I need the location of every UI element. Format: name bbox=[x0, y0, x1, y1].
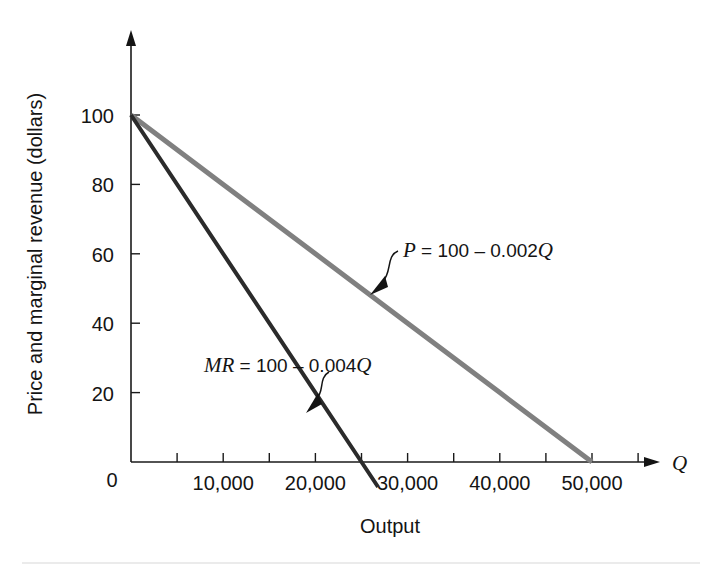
demand-annotation-label: P = 100 – 0.002Q bbox=[402, 238, 553, 262]
x-tick-label: 30,000 bbox=[377, 472, 438, 494]
x-axis-tick-labels: 10,00020,00030,00040,00050,000 bbox=[193, 472, 623, 494]
y-tick-label: 40 bbox=[92, 313, 114, 335]
series-group bbox=[131, 115, 592, 487]
origin-tick-label: 0 bbox=[106, 469, 117, 491]
y-axis-ticks bbox=[131, 115, 140, 393]
y-axis-tick-labels: 20406080100 bbox=[81, 105, 114, 405]
demand-annotation-leader bbox=[383, 251, 398, 281]
mr-annotation-label: MR = 100 – 0.004Q bbox=[203, 353, 372, 377]
y-axis-title: Price and marginal revenue (dollars) bbox=[24, 93, 46, 415]
x-tick-label: 10,000 bbox=[193, 472, 254, 494]
y-tick-label: 100 bbox=[81, 105, 114, 127]
x-tick-label: 50,000 bbox=[561, 472, 622, 494]
x-axis-title: Output bbox=[360, 515, 420, 537]
x-tick-label: 40,000 bbox=[469, 472, 530, 494]
x-tick-label: 20,000 bbox=[285, 472, 346, 494]
y-axis-arrowhead bbox=[126, 30, 136, 46]
x-axis-arrowhead bbox=[644, 457, 660, 467]
mr-annotation: MR = 100 – 0.004Q bbox=[203, 353, 372, 413]
series-line-mr bbox=[131, 115, 378, 487]
y-tick-label: 80 bbox=[92, 174, 114, 196]
chart-figure: 10,00020,00030,00040,00050,000 204060801… bbox=[0, 0, 723, 568]
axes-group bbox=[126, 30, 660, 467]
y-tick-label: 20 bbox=[92, 383, 114, 405]
demand-annotation-arrowhead bbox=[370, 276, 388, 295]
x-axis-ticks bbox=[177, 453, 638, 462]
demand-annotation: P = 100 – 0.002Q bbox=[370, 238, 553, 295]
series-line-p bbox=[131, 115, 592, 462]
price-marginal-revenue-chart: 10,00020,00030,00040,00050,000 204060801… bbox=[0, 0, 723, 568]
y-tick-label: 60 bbox=[92, 244, 114, 266]
x-axis-variable-label: Q bbox=[672, 451, 687, 475]
